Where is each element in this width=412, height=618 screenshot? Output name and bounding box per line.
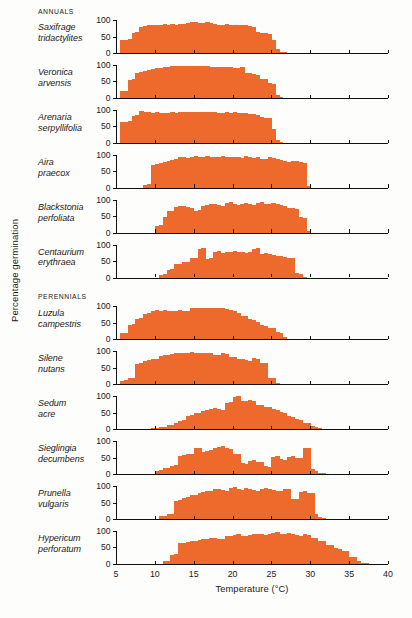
x-tick — [155, 184, 156, 187]
x-tick — [233, 336, 234, 339]
panel-plot: 050100 — [116, 396, 388, 429]
y-tick — [113, 351, 116, 352]
x-axis-line — [116, 429, 388, 430]
x-tick — [388, 140, 389, 143]
group-heading-annuals: ANNUALS — [38, 8, 74, 15]
bar-series — [116, 200, 388, 233]
x-tick — [233, 229, 234, 232]
x-axis-line — [116, 98, 388, 99]
x-tick — [194, 516, 195, 519]
x-axis-line — [116, 188, 388, 189]
x-axis-title: Temperature (°C) — [116, 584, 388, 594]
x-tick — [388, 561, 389, 564]
bar-series — [116, 486, 388, 519]
bar-series — [116, 306, 388, 339]
y-tick-label: 50 — [101, 167, 111, 176]
x-tick — [349, 336, 350, 339]
y-axis-line — [116, 441, 117, 475]
x-axis-line — [116, 339, 388, 340]
x-tick — [194, 229, 195, 232]
y-tick-label: 100 — [96, 302, 110, 311]
x-tick-label: 25 — [267, 569, 277, 579]
x-tick — [388, 516, 389, 519]
x-tick — [155, 229, 156, 232]
y-tick-label: 0 — [106, 273, 111, 282]
x-tick — [155, 381, 156, 384]
bar-series — [116, 441, 388, 474]
y-tick-label: 100 — [96, 437, 110, 446]
y-tick — [113, 81, 116, 82]
x-tick — [194, 95, 195, 98]
x-tick — [388, 95, 389, 98]
y-tick-label: 0 — [106, 139, 111, 148]
x-tick — [194, 140, 195, 143]
y-tick-label: 100 — [96, 482, 110, 491]
y-tick-label: 100 — [96, 527, 110, 536]
y-tick — [113, 368, 116, 369]
x-tick — [271, 336, 272, 339]
y-tick-label: 0 — [106, 183, 111, 192]
y-tick-label: 50 — [101, 364, 111, 373]
x-axis-line — [116, 384, 388, 385]
x-axis-line — [116, 53, 388, 54]
y-tick-label: 50 — [101, 257, 111, 266]
x-tick-label: 15 — [189, 569, 199, 579]
panel-plot: 050100 — [116, 245, 388, 278]
x-tick — [310, 184, 311, 187]
x-tick — [349, 140, 350, 143]
x-tick — [349, 229, 350, 232]
y-tick — [113, 261, 116, 262]
y-axis-line — [116, 351, 117, 385]
x-tick — [155, 140, 156, 143]
x-axis-line — [116, 474, 388, 475]
bar-series — [116, 351, 388, 384]
y-tick — [113, 245, 116, 246]
x-tick — [155, 50, 156, 53]
bar-series — [116, 245, 388, 278]
x-tick — [233, 274, 234, 277]
y-tick-label: 100 — [96, 195, 110, 204]
x-tick — [194, 274, 195, 277]
y-axis-line — [116, 245, 117, 279]
y-axis-line — [116, 110, 117, 144]
x-tick — [233, 50, 234, 53]
x-tick — [310, 381, 311, 384]
y-axis-line — [116, 20, 117, 54]
x-axis-line — [116, 519, 388, 520]
panel-plot: 050100 — [116, 306, 388, 339]
x-axis-line — [116, 278, 388, 279]
y-tick-label: 0 — [106, 515, 111, 524]
x-tick — [310, 274, 311, 277]
y-tick-label: 100 — [96, 240, 110, 249]
x-tick — [310, 140, 311, 143]
x-tick — [194, 471, 195, 474]
x-tick — [349, 381, 350, 384]
y-tick-label: 50 — [101, 408, 111, 417]
x-tick — [233, 184, 234, 187]
y-tick-label: 50 — [101, 77, 111, 86]
y-tick-label: 0 — [106, 380, 111, 389]
x-tick — [271, 229, 272, 232]
x-tick — [310, 471, 311, 474]
x-tick — [194, 336, 195, 339]
x-tick — [388, 274, 389, 277]
x-tick — [349, 426, 350, 429]
x-tick — [271, 274, 272, 277]
x-tick — [349, 184, 350, 187]
y-axis-line — [116, 486, 117, 520]
bar-series — [116, 110, 388, 143]
y-tick — [113, 531, 116, 532]
y-axis-line — [116, 65, 117, 99]
panel-plot: 050100 — [116, 486, 388, 519]
x-tick — [349, 274, 350, 277]
panel-plot: 050100 — [116, 155, 388, 188]
x-tick — [194, 50, 195, 53]
bar-series — [116, 20, 388, 53]
x-tick — [388, 184, 389, 187]
y-axis-line — [116, 200, 117, 234]
group-heading-perennials: PERENNIALS — [38, 293, 87, 300]
x-tick — [271, 516, 272, 519]
x-tick — [310, 426, 311, 429]
y-tick-label: 0 — [106, 425, 111, 434]
y-tick-label: 0 — [106, 335, 111, 344]
